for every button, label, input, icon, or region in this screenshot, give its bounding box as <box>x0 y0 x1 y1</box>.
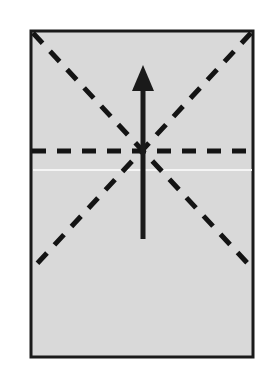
origami-diagram-canvas <box>0 0 272 378</box>
origami-diagram <box>0 0 272 378</box>
